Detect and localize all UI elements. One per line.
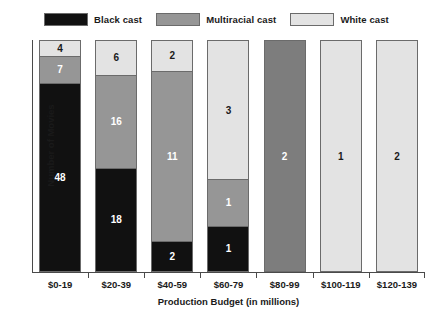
segment-white-cast: 3 — [207, 40, 249, 179]
x-axis-label-0-19: $0-19 — [32, 279, 88, 290]
legend-swatch-white-cast — [290, 13, 334, 26]
x-axis-label-100-119: $100-119 — [313, 279, 369, 290]
x-axis-tick — [88, 273, 89, 278]
x-axis-labels: $0-19 $20-39 $40-59 $60-79 $80-99 $100-1… — [32, 279, 425, 290]
plot-area: 4 7 48 6 16 18 2 11 2 — [32, 40, 425, 273]
bar-slot-0-19: 4 7 48 — [32, 40, 88, 272]
y-axis-title: Number of Movies — [45, 81, 56, 211]
x-axis-label-60-79: $60-79 — [200, 279, 256, 290]
stacked-bar-chart: Black cast Multiracial cast White cast 4… — [0, 0, 433, 328]
segment-black-cast: 1 — [207, 226, 249, 272]
segment-white-cast: 2 — [151, 40, 193, 71]
legend-swatch-black-cast — [44, 13, 88, 26]
x-axis-tick — [313, 273, 314, 278]
legend-label-multiracial-cast: Multiracial cast — [206, 14, 276, 25]
segment-multiracial-cast: 2 — [264, 40, 306, 272]
legend-label-black-cast: Black cast — [94, 14, 142, 25]
x-axis-label-20-39: $20-39 — [88, 279, 144, 290]
bar-slot-60-79: 3 1 1 — [200, 40, 256, 272]
bar-60-79: 3 1 1 — [207, 40, 249, 272]
bar-80-99: 2 — [264, 40, 306, 272]
bar-120-139: 2 — [376, 40, 418, 272]
x-axis-label-80-99: $80-99 — [257, 279, 313, 290]
segment-white-cast: 1 — [320, 40, 362, 272]
segment-multiracial-cast: 11 — [151, 71, 193, 241]
x-axis-tick — [200, 273, 201, 278]
segment-multiracial-cast: 16 — [95, 75, 137, 168]
segment-multiracial-cast: 1 — [207, 179, 249, 225]
x-axis-label-40-59: $40-59 — [144, 279, 200, 290]
bar-40-59: 2 11 2 — [151, 40, 193, 272]
segment-multiracial-cast: 7 — [39, 56, 81, 84]
bar-group: 4 7 48 6 16 18 2 11 2 — [32, 40, 425, 272]
x-axis-label-120-139: $120-139 — [369, 279, 425, 290]
x-axis-tick — [144, 273, 145, 278]
x-axis-tick — [369, 273, 370, 278]
x-axis-tick — [424, 273, 425, 278]
x-axis-ticks — [32, 273, 425, 278]
legend-item-multiracial-cast: Multiracial cast — [156, 13, 276, 26]
legend-item-white-cast: White cast — [290, 13, 389, 26]
bar-slot-100-119: 1 — [313, 40, 369, 272]
segment-white-cast: 6 — [95, 40, 137, 75]
legend-item-black-cast: Black cast — [44, 13, 142, 26]
bar-slot-20-39: 6 16 18 — [88, 40, 144, 272]
bar-20-39: 6 16 18 — [95, 40, 137, 272]
segment-black-cast: 2 — [151, 241, 193, 272]
chart-legend: Black cast Multiracial cast White cast — [0, 13, 433, 26]
bar-100-119: 1 — [320, 40, 362, 272]
bar-slot-120-139: 2 — [369, 40, 425, 272]
x-axis-tick — [256, 273, 257, 278]
bar-slot-40-59: 2 11 2 — [144, 40, 200, 272]
segment-white-cast: 2 — [376, 40, 418, 272]
segment-black-cast: 18 — [95, 168, 137, 272]
legend-swatch-multiracial-cast — [156, 13, 200, 26]
segment-white-cast: 4 — [39, 40, 81, 56]
x-axis-title: Production Budget (in millions) — [32, 296, 425, 307]
bar-slot-80-99: 2 — [257, 40, 313, 272]
legend-label-white-cast: White cast — [340, 14, 389, 25]
